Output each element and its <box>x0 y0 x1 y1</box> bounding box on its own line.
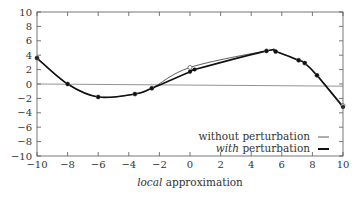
y-tick-label: −4 <box>17 107 32 118</box>
y-tick-label: 2 <box>26 64 32 75</box>
x-tick-label: 6 <box>279 159 285 170</box>
y-tick-label: 10 <box>19 7 32 18</box>
x-tick-label: −6 <box>91 159 106 170</box>
reference-line <box>37 84 343 86</box>
series-without-perturbation <box>37 50 343 106</box>
x-axis-label: local approximation <box>137 176 243 188</box>
y-tick-label: 6 <box>26 35 32 46</box>
x-tick-label: 0 <box>187 159 193 170</box>
y-tick-label: −8 <box>17 136 32 147</box>
y-tick-label: 8 <box>26 21 32 32</box>
x-tick-label: 2 <box>217 159 223 170</box>
y-tick-label: 4 <box>26 50 32 61</box>
y-tick-label: 0 <box>26 79 32 90</box>
y-tick-label: −10 <box>11 151 32 162</box>
x-tick-label: −8 <box>60 159 75 170</box>
y-tick-label: −6 <box>17 122 32 133</box>
series-with-perturbation <box>37 49 343 107</box>
legend-label-without: without perturbation <box>198 130 310 142</box>
chart: −10−8−6−4−20246810−10−8−6−4−20246810 wit… <box>0 0 360 201</box>
x-tick-label: 4 <box>248 159 254 170</box>
x-tick-label: 10 <box>337 159 350 170</box>
x-tick-label: −4 <box>121 159 136 170</box>
legend-label-with: with perturbation <box>216 142 311 154</box>
x-tick-label: 8 <box>309 159 315 170</box>
legend: without perturbation with perturbation <box>198 130 329 154</box>
x-tick-label: −2 <box>152 159 167 170</box>
y-tick-label: −2 <box>17 93 32 104</box>
data-markers <box>35 49 345 109</box>
